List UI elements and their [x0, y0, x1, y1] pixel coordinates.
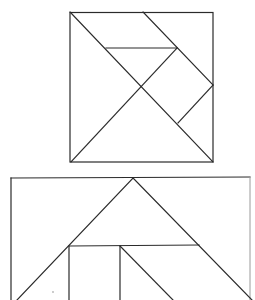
square-edge-line — [178, 85, 213, 123]
house-tangram — [11, 177, 252, 300]
roof-left-line — [17, 178, 133, 300]
paper-speck — [52, 291, 54, 293]
crossbar-line — [69, 245, 199, 246]
tangram-diagram — [0, 0, 255, 300]
anti-diagonal-line — [71, 48, 177, 162]
inner-diagonal-line — [120, 246, 173, 300]
square-tangram — [70, 12, 213, 162]
roof-right-line — [133, 178, 252, 300]
top-border-line — [11, 177, 250, 178]
